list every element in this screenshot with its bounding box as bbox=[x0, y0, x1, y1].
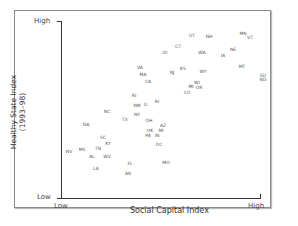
point-MN: MN bbox=[239, 31, 246, 36]
x-axis bbox=[61, 198, 261, 199]
point-WA: WA bbox=[198, 50, 205, 55]
point-NJ: NJ bbox=[170, 70, 175, 75]
point-OR: OR bbox=[196, 85, 203, 90]
point-LA: LA bbox=[93, 166, 99, 171]
point-CA: CA bbox=[145, 79, 151, 84]
point-PA: PA bbox=[145, 133, 151, 138]
point-OH: OH bbox=[146, 118, 153, 123]
point-RI: RI bbox=[132, 93, 136, 98]
y-axis bbox=[61, 21, 62, 199]
point-ND: ND bbox=[260, 77, 267, 82]
point-NH: NH bbox=[206, 34, 213, 39]
point-NY: NY bbox=[134, 112, 140, 117]
point-AL: AL bbox=[89, 154, 95, 159]
point-CO: CO bbox=[184, 90, 191, 95]
point-IA: IA bbox=[221, 53, 225, 58]
point-RI-2: RI bbox=[155, 99, 159, 104]
point-FL: FL bbox=[127, 161, 132, 166]
x-tick-label-high: High bbox=[248, 202, 264, 210]
point-SC: SC bbox=[100, 135, 106, 140]
point-IL: IL bbox=[144, 102, 148, 107]
point-MO: MO bbox=[162, 160, 169, 165]
y-tick-low bbox=[57, 198, 61, 199]
point-AR: AR bbox=[125, 171, 131, 176]
point-NC: NC bbox=[104, 109, 111, 114]
y-tick-label-low: Low bbox=[37, 193, 51, 201]
point-MA: MA bbox=[140, 72, 147, 77]
point-VT: VT bbox=[247, 35, 253, 40]
point-DC: DC bbox=[156, 142, 163, 147]
chart-frame bbox=[14, 10, 271, 208]
point-TN: TN bbox=[95, 146, 101, 151]
point-ID: ID bbox=[163, 50, 168, 55]
x-axis-title: Social Capital Index bbox=[130, 206, 209, 215]
x-tick-label-low: Low bbox=[54, 202, 68, 210]
point-IN: IN bbox=[155, 133, 160, 138]
x-tick-high bbox=[260, 194, 261, 198]
point-KS: KS bbox=[180, 66, 186, 71]
point-WY: WY bbox=[199, 69, 206, 74]
point-CT: CT bbox=[175, 44, 181, 49]
y-axis-title: Healthy State Index (1993–98) bbox=[9, 75, 27, 149]
point-VA: VA bbox=[137, 65, 143, 70]
y-tick-high bbox=[57, 21, 61, 22]
point-NE: NE bbox=[230, 47, 236, 52]
y-tick-label-high: High bbox=[34, 17, 50, 25]
point-KY: KY bbox=[105, 141, 111, 146]
point-TX: TX bbox=[122, 117, 128, 122]
point-UT: UT bbox=[189, 33, 195, 38]
point-MI: MI bbox=[188, 84, 193, 89]
point-WV: WV bbox=[103, 154, 111, 159]
point-MS: MS bbox=[79, 147, 86, 152]
point-NM: NM bbox=[133, 103, 140, 108]
point-GA: GA bbox=[83, 122, 90, 127]
point-MT: MT bbox=[239, 64, 246, 69]
point-NV: NV bbox=[66, 149, 72, 154]
